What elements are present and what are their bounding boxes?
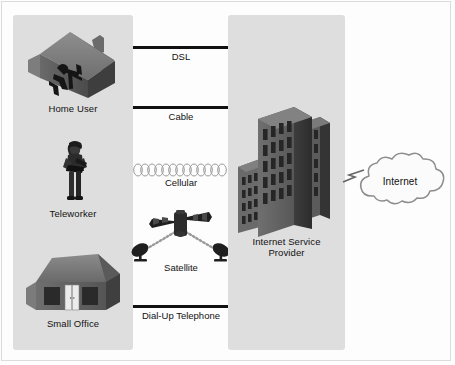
diagram-canvas: Home User bbox=[0, 0, 455, 365]
satellite-link-icon bbox=[130, 210, 232, 262]
dialup-connection-line bbox=[133, 305, 229, 308]
cable-connection-line bbox=[133, 106, 229, 109]
house-with-user-icon bbox=[18, 28, 124, 100]
isp-label-line1: Internet Service bbox=[228, 236, 345, 247]
dsl-label: DSL bbox=[131, 51, 231, 62]
satellite-label: Satellite bbox=[131, 262, 231, 273]
cellular-label: Cellular bbox=[131, 177, 231, 188]
cellular-wave-icon bbox=[133, 163, 229, 177]
dialup-label: Dial-Up Telephone bbox=[126, 310, 236, 321]
office-towers-icon bbox=[234, 103, 340, 243]
isp-label-line2: Provider bbox=[228, 247, 345, 258]
small-office-label: Small Office bbox=[13, 318, 133, 329]
home-user-label: Home User bbox=[13, 103, 133, 114]
cable-label: Cable bbox=[131, 111, 231, 122]
small-office-building-icon bbox=[22, 252, 124, 318]
teleworker-label: Teleworker bbox=[13, 208, 133, 219]
dsl-connection-line bbox=[133, 46, 229, 49]
internet-label: Internet bbox=[352, 176, 448, 187]
person-with-laptop-icon bbox=[55, 140, 95, 204]
